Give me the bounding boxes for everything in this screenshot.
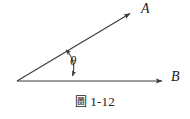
vector-label-b: B: [171, 70, 180, 84]
caption-number: 1-12: [90, 94, 115, 109]
vector-label-a: A: [141, 2, 150, 16]
angle-label-theta: θ: [70, 54, 76, 67]
figure-caption: 圖 1-12: [0, 94, 190, 110]
caption-figure-word: 圖: [75, 95, 87, 109]
figure-container: A B θ 圖 1-12: [0, 0, 190, 119]
